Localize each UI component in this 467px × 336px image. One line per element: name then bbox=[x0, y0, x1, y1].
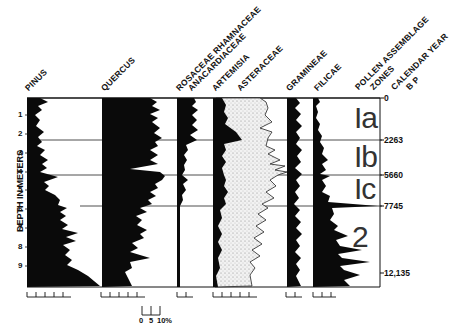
year-0: 0 bbox=[384, 93, 389, 103]
zone-label-ia: Ia bbox=[354, 101, 377, 135]
pinus-curve bbox=[27, 98, 100, 287]
zone-label-2: 2 bbox=[352, 220, 368, 254]
scale-bars bbox=[27, 292, 336, 315]
depth-tick-5: 5 bbox=[18, 185, 22, 194]
scale-label-0: 0 bbox=[139, 316, 143, 325]
depth-tick-7: 7 bbox=[18, 223, 22, 232]
depth-tick-1: 1 bbox=[18, 110, 22, 119]
depth-tick-3: 3 bbox=[18, 148, 22, 157]
depth-tick-9: 9 bbox=[18, 261, 22, 270]
rosaceae-curve bbox=[177, 98, 198, 287]
year-2263: 2263 bbox=[384, 135, 403, 145]
quercus-curve bbox=[102, 98, 165, 287]
year-5660: 5660 bbox=[384, 170, 403, 180]
depth-tick-2: 2 bbox=[18, 129, 22, 138]
scale-label-5: 5 bbox=[149, 316, 153, 325]
depth-tick-8: 8 bbox=[18, 242, 22, 251]
gramineae-curve bbox=[287, 98, 302, 287]
depth-tick-6: 6 bbox=[18, 204, 22, 213]
depth-tick-4: 4 bbox=[18, 167, 22, 176]
zone-label-ib: Ib bbox=[354, 140, 377, 174]
pollen-diagram bbox=[0, 0, 467, 336]
year-12135: 12,135 bbox=[384, 268, 410, 278]
zone-label-ic: Ic bbox=[354, 172, 375, 206]
year-7745: 7745 bbox=[384, 201, 403, 211]
scale-label-10: 10% bbox=[157, 316, 172, 325]
